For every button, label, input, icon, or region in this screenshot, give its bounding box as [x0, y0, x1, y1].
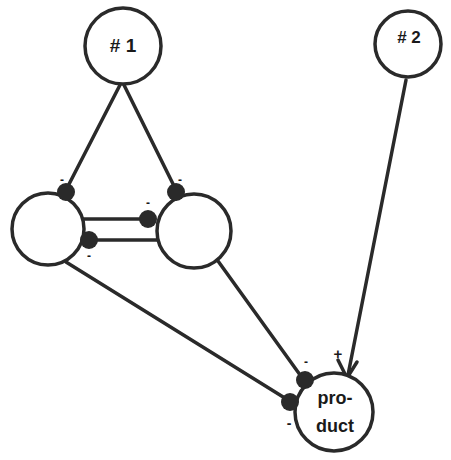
edge-right-product	[218, 261, 303, 379]
network-diagram	[0, 0, 451, 460]
node-2[interactable]	[375, 11, 441, 77]
node-left[interactable]	[12, 193, 84, 265]
inhibitory-synapse-icon	[296, 371, 314, 389]
sign-minus: -	[178, 173, 182, 187]
node-1[interactable]	[85, 8, 161, 84]
sign-minus: -	[146, 196, 150, 210]
diagram-canvas: # 1 # 2 pro- duct - - - - - - +	[0, 0, 451, 460]
node-right[interactable]	[157, 194, 231, 268]
edge-n2-product	[348, 80, 406, 375]
sign-minus: -	[60, 173, 64, 187]
inhibitory-synapse-icon	[167, 183, 185, 201]
sign-plus: +	[334, 345, 343, 362]
sign-minus: -	[287, 415, 292, 431]
edge-n1-left	[66, 85, 120, 190]
edge-n1-right	[124, 85, 176, 190]
sign-minus: -	[87, 249, 91, 263]
edge-left-product	[66, 262, 288, 400]
sign-minus: -	[304, 355, 308, 369]
inhibitory-synapse-icon	[139, 210, 157, 228]
inhibitory-synapse-icon	[80, 231, 98, 249]
inhibitory-synapse-icon	[281, 393, 299, 411]
